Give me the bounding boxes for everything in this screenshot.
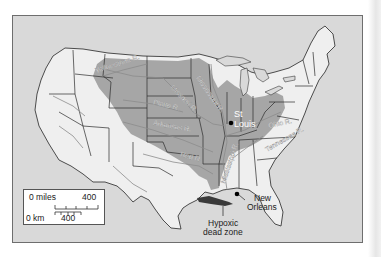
- map-frame: Yellowstone R. Missouri R. Mississippi R…: [12, 15, 363, 243]
- hypoxic-dead-zone-area: [197, 196, 233, 206]
- scale-km-max: 400: [61, 213, 75, 223]
- st-louis-marker: [229, 121, 234, 126]
- new-orleans-marker: [235, 192, 240, 197]
- label-st-louis-line2: Louis: [234, 119, 256, 129]
- page-edge-shadow: [368, 0, 381, 257]
- scale-km-zero: 0 km: [26, 213, 44, 223]
- label-st-louis-line1: St: [234, 109, 243, 119]
- label-new-orleans-line2: Orleans: [247, 202, 277, 212]
- label-dead-zone-line2: dead zone: [203, 227, 243, 237]
- scale-bar: 0 miles 400 0 km 400: [23, 189, 105, 225]
- new-orleans-leader: [239, 195, 245, 200]
